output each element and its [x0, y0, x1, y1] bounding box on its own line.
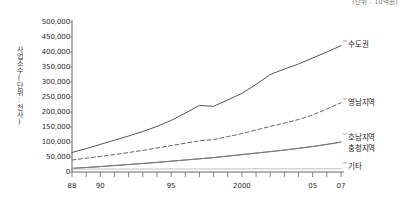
line-chart: (단위 : 10억원) 사업소수(단위:천사) 050,000100,00015…: [0, 0, 404, 201]
series-label-sudogwon: 수도권: [348, 38, 368, 49]
series-label-group: 수도권 영남지역 호남지역 충청지역 기타: [0, 0, 404, 201]
series-label-honam: 호남지역: [348, 131, 375, 142]
series-label-yeongnam: 영남지역: [348, 96, 375, 107]
series-label-chungcheong: 충청지역: [348, 142, 375, 153]
series-label-gita: 기타: [348, 160, 362, 171]
